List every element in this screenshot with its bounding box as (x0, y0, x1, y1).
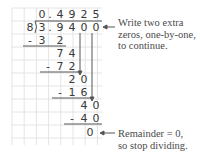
divisor: 8 (24, 21, 36, 34)
remainder-annotation: Remainder = 0, so stop dividing. (118, 128, 188, 151)
quotient-digit: 4 (54, 8, 66, 21)
minus-sign: - (42, 60, 54, 73)
remainder-digit: 7 (54, 47, 66, 60)
final-remainder: 0 (84, 126, 96, 139)
arrow-left-icon (100, 131, 104, 135)
minus-sign: - (54, 86, 66, 99)
arrow-left-icon (103, 25, 107, 29)
subtract-digit: 6 (78, 86, 90, 99)
subtract-digit: 2 (66, 60, 78, 73)
subtract-digit: 2 (54, 34, 66, 47)
subtract-digit: 3 (36, 34, 48, 47)
remainder-digit: 2 (66, 73, 78, 86)
quotient-digit: 9 (66, 8, 78, 21)
dividend-digit: 4 (66, 21, 78, 34)
extra-zero: 0 (78, 21, 90, 34)
subtract-digit: 7 (54, 60, 66, 73)
subtract-digit: 1 (66, 86, 78, 99)
subtract-digit: 4 (78, 112, 90, 125)
minus-sign: - (66, 112, 78, 125)
minus-sign: - (24, 34, 36, 47)
remainder-digit: 4 (78, 99, 90, 112)
remainder-digit: 0 (78, 73, 90, 86)
extra-zeros-annotation: Write two extra zeros, one-by-one, to co… (118, 17, 196, 52)
remainder-digit: 4 (66, 47, 78, 60)
subtract-digit: 0 (90, 112, 102, 125)
extra-zero: 0 (90, 21, 102, 34)
quotient-digit: 5 (90, 8, 102, 21)
remainder-digit: 0 (90, 99, 102, 112)
dividend-digit: 9 (54, 21, 66, 34)
quotient-digit: 2 (78, 8, 90, 21)
